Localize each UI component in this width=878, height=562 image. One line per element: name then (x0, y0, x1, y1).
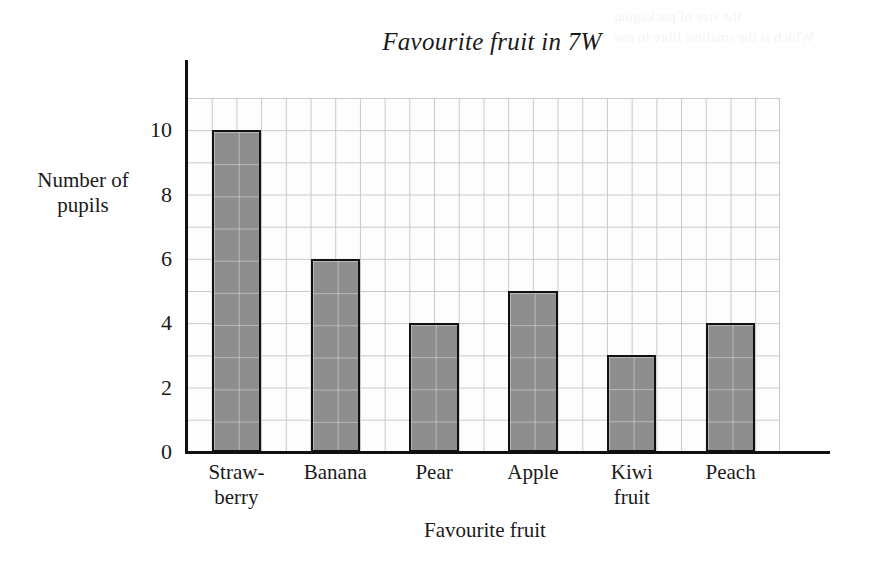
bar-pear (409, 323, 458, 452)
bars-layer (187, 98, 780, 452)
y-tick-label-10: 10 (138, 119, 172, 141)
category-label-peach: Peach (667, 460, 795, 485)
y-tick-label-8: 8 (138, 184, 172, 206)
chart-title: Favourite fruit in 7W (352, 28, 632, 56)
bar-strawberry (212, 130, 261, 452)
x-axis-line (185, 451, 830, 454)
x-axis-label: Favourite fruit (355, 518, 615, 543)
y-tick-label-2: 2 (138, 377, 172, 399)
bar-peach (706, 323, 755, 452)
bar-chart-figure: Favourite fruit in 7W Number of pupils 0… (0, 0, 878, 562)
y-axis-line (185, 60, 188, 454)
bar-apple (508, 291, 557, 452)
y-tick-label-4: 4 (138, 312, 172, 334)
y-axis-label: Number of pupils (18, 168, 148, 218)
y-tick-label-6: 6 (138, 248, 172, 270)
y-tick-label-0: 0 (138, 441, 172, 463)
bar-banana (311, 259, 360, 452)
bar-kiwi-fruit (607, 355, 656, 452)
